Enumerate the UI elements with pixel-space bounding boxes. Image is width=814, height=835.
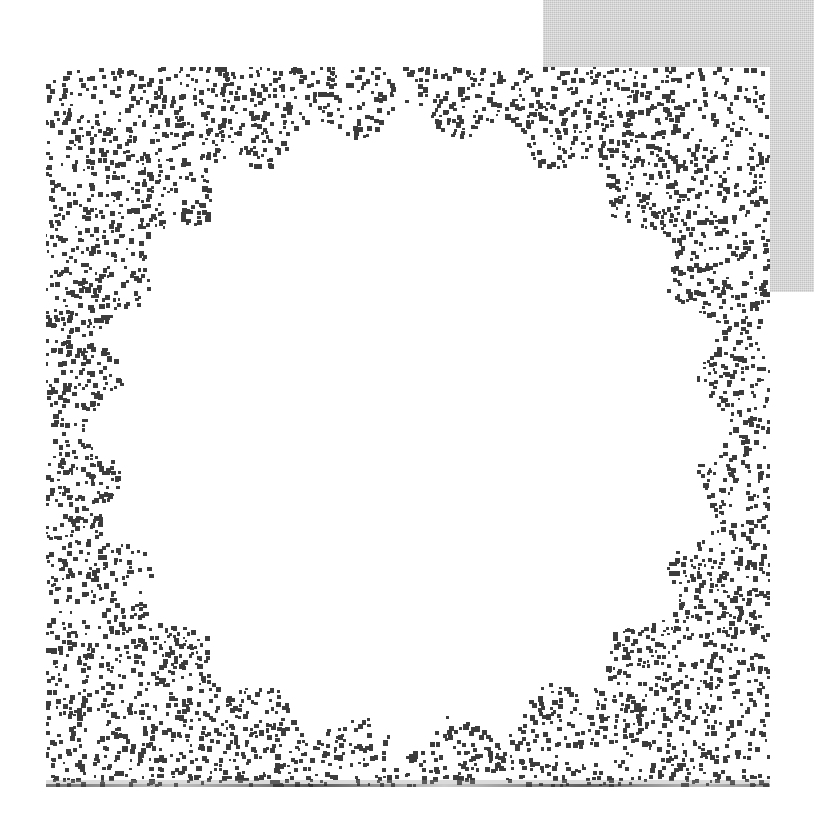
micrograph-canvas [46,67,770,787]
electron-micrograph [46,67,770,787]
figure-page [0,0,814,835]
bottom-scan-line [46,784,770,787]
